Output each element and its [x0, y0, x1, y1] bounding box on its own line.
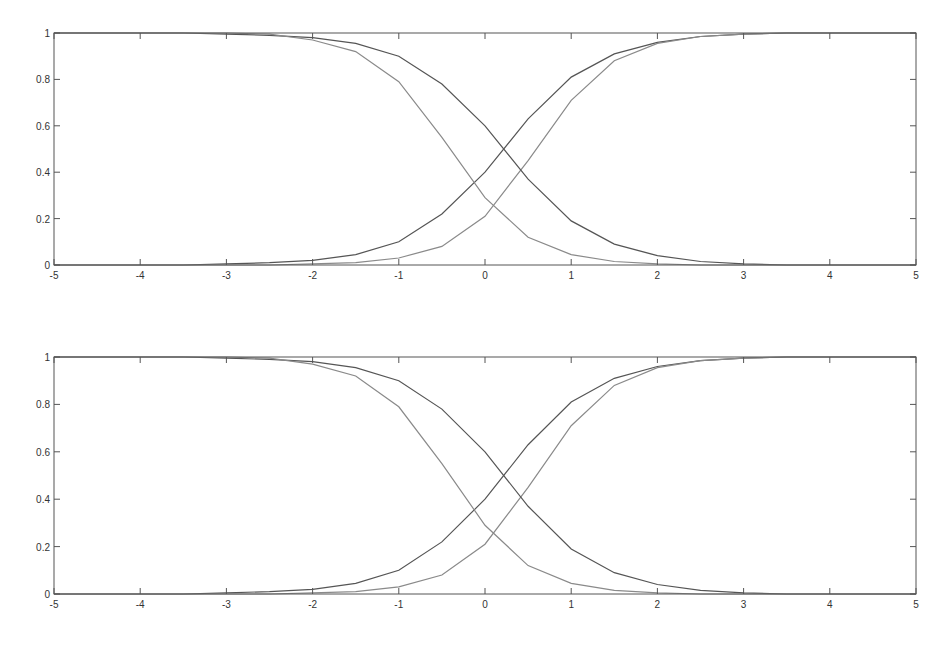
y-tick-label: 0 [44, 589, 50, 600]
y-tick-label: 0.8 [36, 74, 50, 85]
y-tick-label: 0.4 [36, 167, 50, 178]
y-tick-label: 0.6 [36, 121, 50, 132]
x-tick-label: -4 [136, 270, 145, 281]
x-tick-label: -1 [394, 270, 403, 281]
series-line-rising-dark [54, 33, 916, 265]
series-line-rising-light [54, 357, 916, 594]
y-tick-label: 0 [44, 260, 50, 271]
x-tick-label: 2 [655, 270, 661, 281]
y-tick-label: 1 [44, 352, 50, 363]
series-line-falling-light [54, 33, 916, 265]
x-tick-label: -2 [308, 599, 317, 610]
series-line-falling-dark [54, 357, 916, 594]
y-tick-label: 0.4 [36, 494, 50, 505]
y-tick-label: 0.6 [36, 447, 50, 458]
series-line-rising-light [54, 33, 916, 265]
x-tick-label: -5 [50, 599, 59, 610]
y-tick-label: 0.2 [36, 542, 50, 553]
series-line-falling-dark [54, 33, 916, 265]
x-tick-label: 1 [568, 599, 574, 610]
y-tick-label: 0.8 [36, 399, 50, 410]
axes-frame [54, 357, 916, 594]
x-tick-label: -3 [222, 599, 231, 610]
x-tick-label: -5 [50, 270, 59, 281]
series-line-rising-dark [54, 357, 916, 594]
x-tick-label: 4 [827, 270, 833, 281]
x-tick-label: 0 [482, 599, 488, 610]
top-plot: -5-4-3-2-101234500.20.40.60.81 [36, 28, 919, 281]
x-tick-label: 4 [827, 599, 833, 610]
series-line-falling-light [54, 357, 916, 594]
y-tick-label: 1 [44, 28, 50, 39]
x-tick-label: 1 [568, 270, 574, 281]
y-tick-label: 0.2 [36, 214, 50, 225]
bottom-plot: -5-4-3-2-101234500.20.40.60.81 [36, 352, 919, 610]
x-tick-label: 3 [741, 270, 747, 281]
axes-frame [54, 33, 916, 265]
x-tick-label: -2 [308, 270, 317, 281]
x-tick-label: -3 [222, 270, 231, 281]
x-tick-label: -4 [136, 599, 145, 610]
x-tick-label: 5 [913, 270, 919, 281]
x-tick-label: 5 [913, 599, 919, 610]
x-tick-label: 2 [655, 599, 661, 610]
chart-canvas: -5-4-3-2-101234500.20.40.60.81 -5-4-3-2-… [0, 0, 943, 653]
x-tick-label: 0 [482, 270, 488, 281]
x-tick-label: 3 [741, 599, 747, 610]
x-tick-label: -1 [394, 599, 403, 610]
